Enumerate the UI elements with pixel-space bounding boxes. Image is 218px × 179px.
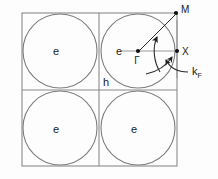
fermi-circle-top-left <box>23 14 97 88</box>
m-point-dot <box>174 11 178 15</box>
electron-label-bottom-left: e <box>53 123 59 135</box>
x-point-dot <box>175 49 179 53</box>
electron-label-top-left: e <box>53 45 59 57</box>
fermi-circle-bottom-right <box>101 91 175 165</box>
kf-subscript: F <box>198 72 202 79</box>
fermi-surface-figure: e e e e h Γ X M kF <box>0 0 218 179</box>
gamma-to-m-vector <box>139 15 175 51</box>
hole-label: h <box>103 76 109 88</box>
electron-label-bottom-right: e <box>131 123 137 135</box>
gamma-point-label: Γ <box>134 55 140 66</box>
curved-arrow-to-x-point <box>146 57 172 74</box>
gamma-point-dot <box>136 49 140 53</box>
fermi-circle-bottom-left <box>23 91 97 165</box>
brillouin-zone-diagram: e e e e h Γ X M kF <box>0 0 218 179</box>
electron-label-top-right: e <box>116 45 122 57</box>
x-point-label: X <box>182 46 189 57</box>
curved-arrow-to-zone-boundary <box>154 37 160 72</box>
fermi-wavevector-label: kF <box>192 65 202 79</box>
m-point-label: M <box>181 4 189 15</box>
